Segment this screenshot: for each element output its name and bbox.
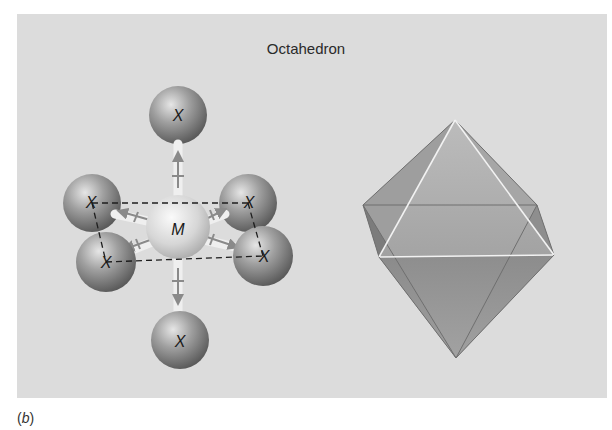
ligand-label-right-back: X xyxy=(243,194,256,211)
central-atom: M xyxy=(146,195,210,259)
central-atom-label: M xyxy=(171,221,185,238)
caption-close-paren: ) xyxy=(29,410,34,426)
ligand-label-left-back: X xyxy=(85,194,98,211)
ligand-label-top: X xyxy=(172,107,185,124)
figure-caption: (b) xyxy=(17,410,34,426)
octahedral-coordination-diagram: M X X X X X X xyxy=(0,0,612,430)
ligand-label-right-front: X xyxy=(258,248,271,265)
ligand-label-bottom: X xyxy=(174,333,187,350)
octahedron-polyhedron xyxy=(363,120,554,358)
ligand-label-left-front: X xyxy=(100,254,113,271)
